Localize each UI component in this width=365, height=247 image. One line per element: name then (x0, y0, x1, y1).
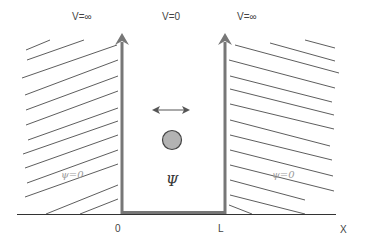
motion-double-arrow-icon (152, 106, 190, 114)
potential-label-left: V=∞ (72, 11, 92, 22)
potential-label-right: V=∞ (237, 11, 257, 22)
psi-zero-label-left: ψ=0 (61, 169, 84, 180)
width-label: L (218, 223, 224, 234)
particle-circle (163, 131, 182, 150)
x-axis-label: X (340, 224, 347, 235)
origin-label: 0 (115, 223, 121, 234)
psi-inside-label: Ψ (166, 173, 179, 189)
right-hatch-region (229, 40, 339, 214)
infinite-square-well-diagram: V=∞ V=0 V=∞ ψ=0 ψ=0 Ψ 0 L X (0, 0, 365, 247)
potential-label-center: V=0 (162, 11, 181, 22)
left-hatch-region (22, 40, 118, 214)
psi-zero-label-right: ψ=0 (272, 169, 295, 180)
